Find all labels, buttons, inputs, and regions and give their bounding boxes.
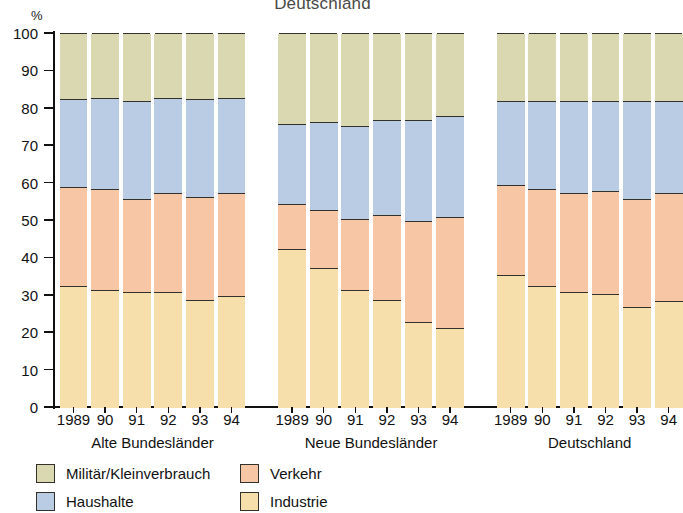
bar-segment-industrie <box>91 290 119 408</box>
bar-segment-industrie <box>560 292 588 408</box>
legend-item: Militär/Kleinverbrauch <box>36 460 210 486</box>
x-axis-tick-label: 93 <box>629 411 646 428</box>
bar-segment-verkehr <box>497 185 525 275</box>
x-axis-tick-label: 92 <box>379 411 396 428</box>
x-axis-tick-label: 94 <box>660 411 677 428</box>
bar-segment-milit-r-kleinverbrauch <box>60 34 88 99</box>
bar-segment-industrie <box>186 300 214 408</box>
bar-segment-haushalte <box>560 101 588 193</box>
bar-segment-haushalte <box>655 101 683 193</box>
stacked-bar <box>405 33 432 407</box>
y-axis-tick <box>44 70 53 72</box>
group-label: Alte Bundesländer <box>91 434 214 451</box>
bar-segment-milit-r-kleinverbrauch <box>310 34 338 122</box>
stacked-bar <box>92 33 119 407</box>
x-axis-tick-label: 1989 <box>57 411 90 428</box>
bar-segment-industrie <box>60 286 88 408</box>
legend-swatch <box>240 464 259 483</box>
y-axis-tick-label: 30 <box>0 286 38 303</box>
bar-segment-industrie <box>154 292 182 408</box>
bar-segment-haushalte <box>528 101 556 189</box>
bar-segment-haushalte <box>218 98 246 193</box>
y-axis-tick <box>44 257 53 259</box>
stacked-bar <box>60 33 87 407</box>
bar-segment-verkehr <box>373 215 401 299</box>
y-axis-tick-label: 100 <box>0 25 38 42</box>
bar-segment-verkehr <box>310 210 338 268</box>
bar-segment-industrie <box>373 300 401 408</box>
y-axis-tick-label: 0 <box>0 399 38 416</box>
bar-segment-milit-r-kleinverbrauch <box>592 34 620 101</box>
bar-segment-milit-r-kleinverbrauch <box>655 34 683 101</box>
bar-segment-haushalte <box>405 120 433 221</box>
y-axis-tick-label: 40 <box>0 249 38 266</box>
legend-label: Militär/Kleinverbrauch <box>66 465 210 482</box>
y-axis-unit-label: % <box>31 8 43 23</box>
bar-segment-verkehr <box>91 189 119 290</box>
stacked-bar <box>655 33 682 407</box>
bar-segment-verkehr <box>592 191 620 294</box>
bar-segment-haushalte <box>123 101 151 198</box>
x-axis-tick-label: 1989 <box>494 411 527 428</box>
bar-segment-industrie <box>623 307 651 408</box>
bar-segment-milit-r-kleinverbrauch <box>528 34 556 101</box>
bar-segment-industrie <box>405 322 433 408</box>
y-axis-tick <box>44 294 53 296</box>
bar-segment-haushalte <box>154 98 182 193</box>
x-axis-tick-label: 93 <box>410 411 427 428</box>
stacked-bar <box>310 33 337 407</box>
x-axis-tick-label: 91 <box>128 411 145 428</box>
bar-segment-verkehr <box>186 197 214 300</box>
bar-segment-haushalte <box>436 116 464 217</box>
bar-segment-milit-r-kleinverbrauch <box>91 34 119 98</box>
y-axis-tick-label: 90 <box>0 62 38 79</box>
bar-segment-verkehr <box>218 193 246 296</box>
bar-segment-industrie <box>592 294 620 408</box>
group-label: Neue Bundesländer <box>305 434 438 451</box>
legend-item: Verkehr <box>240 460 328 486</box>
legend-column-right: VerkehrIndustrie <box>240 460 328 513</box>
x-axis-tick-label: 90 <box>534 411 551 428</box>
bar-segment-haushalte <box>592 101 620 191</box>
x-axis-tick-label: 90 <box>97 411 114 428</box>
stacked-bar <box>497 33 524 407</box>
bar-segment-milit-r-kleinverbrauch <box>623 34 651 101</box>
legend-item: Industrie <box>240 488 328 513</box>
bar-segment-haushalte <box>497 101 525 185</box>
y-axis-tick <box>44 406 53 408</box>
bar-segment-milit-r-kleinverbrauch <box>405 34 433 120</box>
bar-segment-verkehr <box>560 193 588 292</box>
stacked-bar <box>624 33 651 407</box>
bar-segment-industrie <box>341 290 369 408</box>
bar-segment-haushalte <box>91 98 119 190</box>
bar-segment-industrie <box>528 286 556 408</box>
bar-segment-verkehr <box>405 221 433 322</box>
bar-segment-verkehr <box>278 204 306 249</box>
bar-segment-haushalte <box>310 122 338 210</box>
stacked-bar <box>560 33 587 407</box>
x-axis-tick-label: 94 <box>442 411 459 428</box>
stacked-bar <box>279 33 306 407</box>
stacked-bar <box>437 33 464 407</box>
y-axis-line <box>53 31 55 409</box>
legend-label: Industrie <box>270 493 328 510</box>
bar-segment-industrie <box>497 275 525 408</box>
x-axis-tick-label: 91 <box>566 411 583 428</box>
y-axis-tick-label: 20 <box>0 324 38 341</box>
stacked-bar <box>218 33 245 407</box>
bar-segment-verkehr <box>623 199 651 307</box>
bar-segment-verkehr <box>60 187 88 286</box>
y-axis-tick-label: 60 <box>0 174 38 191</box>
bar-segment-milit-r-kleinverbrauch <box>373 34 401 120</box>
bar-segment-verkehr <box>123 199 151 293</box>
y-axis-tick <box>44 32 53 34</box>
bar-segment-industrie <box>436 328 464 408</box>
stacked-bar <box>373 33 400 407</box>
bar-segment-verkehr <box>436 217 464 327</box>
group-label: Deutschland <box>548 434 631 451</box>
y-axis-tick <box>44 107 53 109</box>
stacked-bar <box>342 33 369 407</box>
x-axis-tick-label: 1989 <box>275 411 308 428</box>
y-axis-tick-label: 70 <box>0 137 38 154</box>
